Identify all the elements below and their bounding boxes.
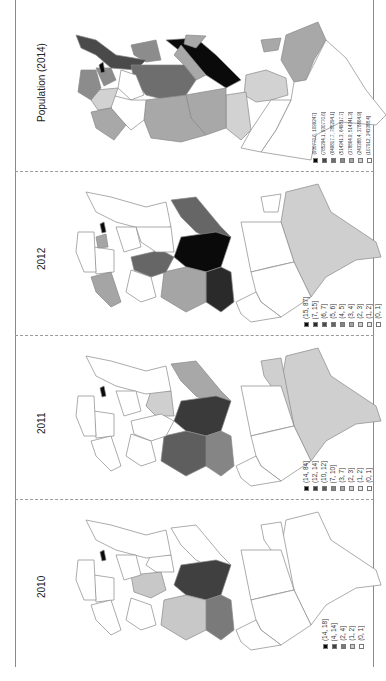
legend-swatch [331,322,336,327]
legend-item: (6, 7] [321,304,327,327]
legend-swatch [341,644,346,649]
legend-item: (2, 3] [348,468,354,491]
legend-swatch [358,322,363,327]
legend-swatch [367,486,372,491]
legend-swatch [331,486,336,491]
legend-swatch [376,322,381,327]
legend-item: (0, 1] [375,304,381,327]
legend-item: (12, 14] [312,461,318,491]
legend-item: (1, 2] [366,304,372,327]
legend-swatch [367,322,372,327]
legend-swatch [322,322,327,327]
legend: (14, 84] (12, 14] (10, 12] (7, 10] (3, 7… [303,461,372,491]
legend-item: (514341.3, 649817.7] [339,112,345,163]
legend-swatch [349,486,354,491]
legend-item: (2, 4] [340,626,346,649]
legend-item: (5, 6] [330,304,336,327]
legend-item: (930770.6, 1099247] [312,113,318,163]
legend-item: (14, 18] [322,619,328,649]
legend: (14, 18] (4, 14] (2, 4] (1, 2] (0, 1] [322,619,364,649]
legend-swatch [304,486,309,491]
legend-swatch [340,486,345,491]
legend-item: (649817.7, 785294.1] [330,112,336,163]
legend-item: (14, 84] [303,461,309,491]
legend-item: (2, 3] [357,304,363,327]
panel-title: 2012 [36,248,47,270]
legend-swatch [322,158,327,163]
panel-2012: 2012 (15, 87] (7, 15] (6, 7] (5, 6] (4, … [16,172,373,335]
legend-item: (7, 10] [330,465,336,491]
legend-item: (10, 12] [321,461,327,491]
legend-swatch [313,158,318,163]
panel-title: Population (2014) [36,43,47,122]
legend-swatch [358,158,363,163]
legend-item: (3, 4] [348,304,354,327]
panel-population-2014: Population (2014) (930770.6, 1099247] (7… [16,0,373,171]
panel-title: 2010 [36,576,47,598]
legend-swatch [349,322,354,327]
legend-item: (785294.1, 930770.6] [321,112,327,163]
legend-swatch [323,644,328,649]
legend-swatch [313,322,318,327]
legend-item: (243388.4, 378864.9] [357,112,363,163]
legend-item: (7, 15] [312,301,318,327]
legend: (930770.6, 1099247] (785294.1, 930770.6]… [312,112,372,163]
legend-item: (107912, 243388.4] [366,116,372,163]
legend-item: (4, 14] [331,623,337,649]
legend-swatch [350,644,355,649]
panel-title: 2011 [36,412,47,434]
legend-item: (3, 7] [339,468,345,491]
legend-swatch [367,158,372,163]
legend-item: (1, 2] [357,468,363,491]
legend-swatch [358,486,363,491]
legend-item: (378864.9, 514341.3] [348,112,354,163]
legend-swatch [340,158,345,163]
legend-item: (4, 5] [339,304,345,327]
legend: (15, 87] (7, 15] (6, 7] (5, 6] (4, 5] (3… [303,297,381,327]
legend-item: (0, 1] [366,468,372,491]
panel-2010: 2010 (14, 18] (4, 14] (2, 4] (1, 2] (0, … [16,500,373,667]
legend-swatch [304,322,309,327]
legend-swatch [340,322,345,327]
legend-swatch [331,158,336,163]
panel-2011: 2011 (14, 84] (12, 14] (10, 12] (7, 10] … [16,336,373,499]
legend-item: (15, 87] [303,297,309,327]
legend-swatch [349,158,354,163]
legend-swatch [332,644,337,649]
legend-swatch [359,644,364,649]
legend-swatch [313,486,318,491]
legend-item: (0, 1] [358,626,364,649]
legend-item: (1, 2] [349,626,355,649]
legend-swatch [322,486,327,491]
